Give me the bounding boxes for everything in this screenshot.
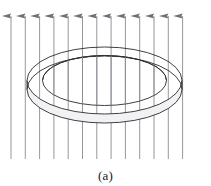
magnetic-field-ring-figure bbox=[0, 0, 211, 186]
figure-caption: (a) bbox=[0, 168, 211, 184]
